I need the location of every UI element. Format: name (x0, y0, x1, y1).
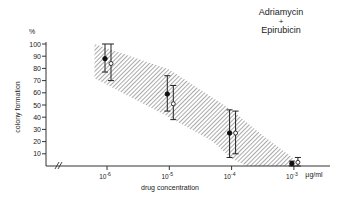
x-tick-label: 10-3 (286, 171, 298, 180)
y-tick-label: 70 (33, 77, 41, 84)
hatched-band-layer (95, 44, 294, 166)
chart-title-line-1: Adriamycin (259, 7, 304, 17)
y-unit-label: % (29, 28, 35, 35)
data-point-open (171, 102, 175, 106)
y-tick-label: 30 (33, 126, 41, 133)
data-point-filled (290, 161, 294, 165)
data-point-filled (165, 92, 169, 96)
y-tick-label: 100 (29, 41, 41, 48)
x-axis-label: drug concentration (141, 184, 199, 192)
x-tick-label: 10-4 (224, 171, 236, 180)
data-point-filled (103, 56, 107, 60)
y-tick-label: 20 (33, 138, 41, 145)
data-point-open (109, 62, 113, 66)
x-unit-label: µg/ml (305, 171, 323, 179)
y-tick-label: 50 (33, 102, 41, 109)
y-tick-label: 40 (33, 114, 41, 121)
y-tick-label: 10 (33, 150, 41, 157)
y-axis-label: colony formation (14, 81, 22, 132)
chart: 10203040506070809010010-610-510-410-3 Ad… (0, 0, 349, 204)
chart-title-line-3: Epirubicin (261, 25, 301, 35)
hatched-band (95, 44, 294, 166)
x-tick-label: 10-6 (99, 171, 111, 180)
data-point-open (296, 160, 300, 164)
x-tick-label: 10-5 (161, 171, 173, 180)
y-tick-label: 60 (33, 89, 41, 96)
data-point-filled (227, 131, 231, 135)
y-tick-label: 80 (33, 65, 41, 72)
y-tick-label: 90 (33, 53, 41, 60)
data-point-open (234, 131, 238, 135)
